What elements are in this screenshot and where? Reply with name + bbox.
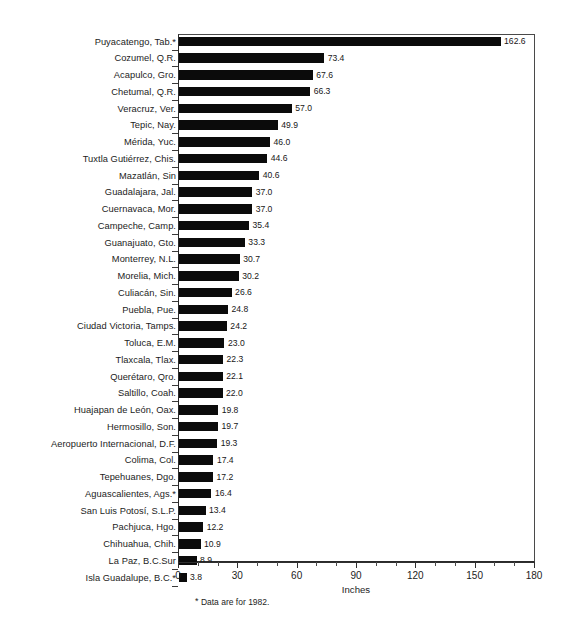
bar-value-label: 40.6 (259, 170, 279, 181)
bar-row: Tuxtla Gutiérrez, Chis.44.6 (0, 151, 573, 168)
x-axis-title: Inches (342, 583, 370, 596)
bar-row: Cuernavaca, Mor.37.0 (0, 202, 573, 219)
bar (179, 472, 213, 482)
bar-row: Cozumel, Q.R.73.4 (0, 51, 573, 68)
x-axis-major-tick (415, 562, 416, 568)
bar-row: Aeropuerto Internacional, D.F.19.3 (0, 436, 573, 453)
category-label: Cuernavaca, Mor. (102, 202, 176, 217)
bar-row: Hermosillo, Son.19.7 (0, 419, 573, 436)
category-label: Tlaxcala, Tlax. (115, 353, 176, 368)
x-axis-minor-tick (435, 562, 436, 566)
category-label: Saltillo, Coah. (118, 386, 176, 401)
x-axis-tick-label: 60 (291, 569, 302, 582)
bar-value-label: 66.3 (310, 86, 330, 97)
bar-value-label: 16.4 (211, 488, 231, 499)
bar-value-label: 30.2 (239, 271, 259, 282)
category-label: Toluca, E.M. (124, 336, 176, 351)
bar-row: Chihuahua, Chih.10.9 (0, 537, 573, 554)
bar-row: Mazatlán, Sin40.6 (0, 168, 573, 185)
bar-value-label: 17.4 (213, 455, 233, 466)
bar-row: Acapulco, Gro.67.6 (0, 68, 573, 85)
bar-value-label: 17.2 (213, 472, 233, 483)
bar-row: San Luis Potosí, S.L.P.13.4 (0, 503, 573, 520)
category-label: Isla Guadalupe, B.C.* (86, 571, 176, 586)
bar-value-label: 19.3 (217, 438, 237, 449)
bar-row: Campeche, Camp.35.4 (0, 218, 573, 235)
bar (179, 338, 224, 348)
category-label: Tuxtla Gutiérrez, Chis. (83, 152, 176, 167)
chart-footnote: * Data are for 1982. (195, 596, 269, 608)
bar-row: Puebla, Pue.24.8 (0, 302, 573, 319)
bar-row: Tlaxcala, Tlax.22.3 (0, 352, 573, 369)
bar-row: Mérida, Yuc.46.0 (0, 135, 573, 152)
x-axis-minor-tick (376, 562, 377, 566)
x-axis-tick-label: 120 (407, 569, 424, 582)
bar (179, 355, 223, 365)
bar-row: Puyacatengo, Tab.*162.6 (0, 34, 573, 51)
bar (179, 37, 501, 47)
bar-value-label: 73.4 (324, 53, 344, 64)
bar (179, 321, 227, 331)
bar-value-label: 33.3 (245, 237, 265, 248)
bar-value-label: 22.3 (223, 354, 243, 365)
category-label: Guanajuato, Gto. (104, 236, 176, 251)
category-label: Ciudad Victoria, Tamps. (77, 319, 176, 334)
bar (179, 522, 203, 532)
bar-row: Querétaro, Qro.22.1 (0, 369, 573, 386)
bar-value-label: 22.1 (223, 371, 243, 382)
x-axis-major-tick (475, 562, 476, 568)
bar (179, 187, 252, 197)
bar-row: Veracruz, Ver.57.0 (0, 101, 573, 118)
x-axis-major-tick (237, 562, 238, 568)
bar-value-label: 13.4 (206, 505, 226, 516)
bar-value-label: 12.2 (203, 522, 223, 533)
x-axis-minor-tick (277, 562, 278, 566)
bar-row: Chetumal, Q.R.66.3 (0, 84, 573, 101)
x-axis-tick-label: 180 (526, 569, 543, 582)
bar-value-label: 44.6 (267, 153, 287, 164)
category-label: Veracruz, Ver. (117, 102, 176, 117)
bar-row: Guanajuato, Gto.33.3 (0, 235, 573, 252)
category-label: Puebla, Pue. (122, 303, 176, 318)
bar-value-label: 8.9 (197, 555, 212, 566)
bar-value-label: 19.7 (218, 421, 238, 432)
bar-row: Aguascalientes, Ags.*16.4 (0, 486, 573, 503)
bar-value-label: 162.6 (501, 36, 526, 47)
x-axis-minor-tick (316, 562, 317, 566)
category-label: Querétaro, Qro. (110, 370, 176, 385)
bar (179, 455, 213, 465)
bar-row: Monterrey, N.L.30.7 (0, 252, 573, 269)
bar-row: Isla Guadalupe, B.C.*3.8 (0, 570, 573, 587)
bar-value-label: 24.2 (227, 321, 247, 332)
bar (179, 171, 259, 181)
bar-row: Toluca, E.M.23.0 (0, 336, 573, 353)
bar (179, 137, 270, 147)
category-label: Morelia, Mich. (117, 269, 176, 284)
bar-row: Tepic, Nay.49.9 (0, 118, 573, 135)
category-label: Chihuahua, Chih. (103, 537, 176, 552)
x-axis-minor-tick (198, 562, 199, 566)
x-axis-minor-tick (396, 562, 397, 566)
category-label: Guadalajara, Jal. (105, 185, 176, 200)
footnote-text: Data are for 1982. (201, 597, 270, 607)
category-label: Mérida, Yuc. (124, 135, 176, 150)
category-label: Colima, Col. (125, 453, 176, 468)
bar-value-label: 24.8 (228, 304, 248, 315)
bar-value-label: 30.7 (240, 254, 260, 265)
bar (179, 87, 310, 97)
bar (179, 506, 206, 516)
x-axis-major-tick (297, 562, 298, 568)
bar-row: Colima, Col.17.4 (0, 453, 573, 470)
bar (179, 254, 240, 264)
category-label: Mazatlán, Sin (119, 169, 176, 184)
bar (179, 221, 249, 231)
bar (179, 556, 197, 566)
x-axis-tick-label: 30 (232, 569, 243, 582)
category-label: Campeche, Camp. (98, 219, 176, 234)
category-label: San Luis Potosí, S.L.P. (80, 504, 176, 519)
category-label: Pachjuca, Hgo. (112, 520, 176, 535)
category-label: Acapulco, Gro. (114, 68, 176, 83)
category-label: Monterrey, N.L. (112, 252, 176, 267)
bar (179, 539, 201, 549)
x-axis-minor-tick (257, 562, 258, 566)
